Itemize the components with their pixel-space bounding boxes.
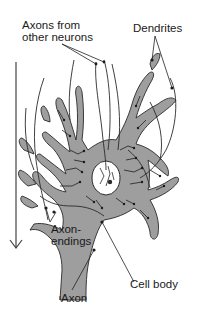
label-cell-body: Cell body — [130, 278, 178, 290]
label-axon: Axon — [61, 292, 87, 304]
label-axon-endings: Axon- endings — [51, 223, 91, 247]
neuron-diagram — [0, 0, 197, 311]
label-dendrites: Dendrites — [133, 22, 182, 34]
label-axons-from-other-neurons: Axons from other neurons — [22, 19, 93, 43]
signal-direction-arrow — [10, 62, 22, 248]
